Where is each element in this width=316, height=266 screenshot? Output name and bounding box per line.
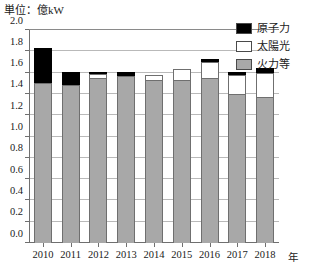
x-tick-mark: [43, 243, 44, 247]
y-tick-label: 1.6: [10, 57, 23, 68]
x-tick-label: 2018: [255, 249, 276, 260]
x-tick-label: 2017: [227, 249, 248, 260]
bar-segment-solar: [228, 75, 246, 94]
x-tick-label: 2014: [144, 249, 165, 260]
y-tick-label: 1.0: [10, 121, 23, 132]
bar-segment-thermal: [201, 78, 219, 243]
bar-segment-thermal: [145, 80, 163, 243]
bar-segment-thermal: [228, 94, 246, 243]
bar-2011: [62, 72, 80, 243]
bar-segment-thermal: [34, 83, 52, 243]
bar-2016: [201, 59, 219, 243]
bar-segment-nuclear: [62, 72, 80, 86]
bar-2018: [256, 68, 274, 243]
y-tick-label: 1.8: [10, 35, 23, 46]
x-tick-mark: [98, 243, 99, 247]
x-tick-mark: [71, 243, 72, 247]
x-tick-mark: [154, 243, 155, 247]
bar-segment-solar: [256, 73, 274, 97]
bar-segment-thermal: [89, 78, 107, 243]
y-tick-label: 0.4: [10, 184, 23, 195]
x-tick-mark: [265, 243, 266, 247]
y-tick-label: 0.0: [10, 227, 23, 238]
bar-segment-nuclear: [34, 48, 52, 83]
legend-label: 原子力: [257, 23, 290, 34]
y-tick-label: 2.0: [10, 14, 23, 25]
bar-2017: [228, 72, 246, 243]
legend-item: 原子力: [236, 22, 290, 35]
y-tick-label: 1.2: [10, 99, 23, 110]
legend-label: 太陽光: [257, 41, 290, 52]
legend: 原子力太陽光火力等: [236, 22, 290, 71]
bar-2014: [145, 75, 163, 243]
x-tick-mark: [237, 243, 238, 247]
x-tick-mark: [182, 243, 183, 247]
y-tick-label: 1.4: [10, 78, 23, 89]
x-tick-label: 2010: [32, 249, 53, 260]
x-tick-mark: [210, 243, 211, 247]
x-tick-label: 2016: [199, 249, 220, 260]
x-tick-label: 2013: [116, 249, 137, 260]
bar-segment-thermal: [173, 80, 191, 243]
legend-swatch-icon: [236, 23, 252, 34]
legend-swatch-icon: [236, 59, 252, 70]
legend-item: 太陽光: [236, 40, 290, 53]
bar-2013: [117, 72, 135, 243]
bar-2015: [173, 69, 191, 243]
bar-segment-thermal: [117, 76, 135, 243]
y-tick-label: 0.6: [10, 163, 23, 174]
x-tick-mark: [126, 243, 127, 247]
stacked-bar-chart: 単位：億kW 0.00.20.40.60.81.01.21.41.61.82.0…: [0, 0, 316, 266]
x-tick-label: 2015: [171, 249, 192, 260]
bar-segment-thermal: [256, 97, 274, 243]
x-tick-label: 2011: [60, 249, 81, 260]
bar-segment-solar: [173, 69, 191, 80]
legend-label: 火力等: [257, 59, 290, 70]
bar-segment-solar: [201, 62, 219, 78]
y-tick-label: 0.8: [10, 142, 23, 153]
bar-2012: [89, 72, 107, 243]
legend-item: 火力等: [236, 58, 290, 71]
x-axis-unit-label: 年: [288, 249, 298, 264]
bar-2010: [34, 48, 52, 243]
y-tick-label: 0.2: [10, 206, 23, 217]
legend-swatch-icon: [236, 41, 252, 52]
bar-segment-thermal: [62, 85, 80, 243]
x-tick-label: 2012: [88, 249, 109, 260]
